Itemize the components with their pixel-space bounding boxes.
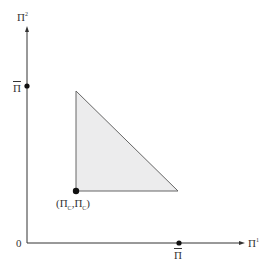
corner-label-mid: ,Π: [72, 197, 83, 209]
y-axis-label-text: Π: [17, 11, 25, 23]
x-axis-label-text: Π: [248, 237, 256, 249]
feasible-region: [76, 91, 178, 191]
origin-label: 0: [16, 238, 22, 249]
y-intercept-point: [24, 83, 29, 88]
corner-label-close: ): [86, 197, 90, 209]
x-intercept-point: [176, 240, 181, 245]
corner-point-label: (ΠC,ΠC): [56, 198, 90, 209]
x-axis-label-sup: 1: [256, 237, 259, 243]
y-axis-label-sup: 2: [25, 11, 28, 17]
corner-label-open: (Π: [56, 197, 68, 209]
corner-label-sub1: C: [68, 205, 72, 211]
x-axis-label: Π1: [248, 238, 259, 249]
diagram-canvas: [0, 0, 272, 272]
y-axis-label: Π2: [17, 12, 28, 23]
x-intercept-label: Π: [174, 250, 182, 261]
corner-point: [73, 188, 79, 194]
y-axis-arrow-icon: [25, 26, 29, 32]
corner-label-sub2: C: [82, 205, 86, 211]
x-axis-arrow-icon: [239, 241, 245, 245]
y-intercept-label: Π: [13, 83, 21, 94]
